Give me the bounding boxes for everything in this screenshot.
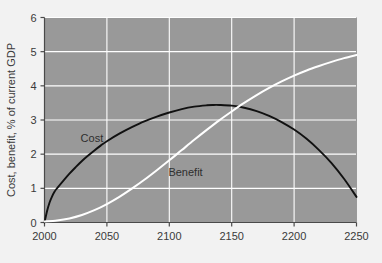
x-tick-label: 2200	[282, 230, 306, 242]
x-tick-label: 2150	[219, 230, 243, 242]
y-tick-label: 4	[30, 80, 36, 92]
y-tick-label: 3	[30, 114, 36, 126]
y-tick-label: 0	[30, 217, 36, 229]
cost-benefit-line-chart: CostBenefit 0123456200020502100215022002…	[0, 0, 382, 263]
x-tick-label: 2100	[157, 230, 181, 242]
series-label-benefit: Benefit	[168, 166, 202, 178]
y-tick-label: 2	[30, 148, 36, 160]
y-tick-label: 1	[30, 182, 36, 194]
y-tick-label: 5	[30, 46, 36, 58]
series-label-cost: Cost	[81, 132, 104, 144]
x-tick-label: 2250	[344, 230, 368, 242]
y-axis-title-text: Cost, benefit, % of current GDP	[5, 43, 17, 197]
x-tick-label: 2050	[95, 230, 119, 242]
y-axis-title: Cost, benefit, % of current GDP	[5, 43, 17, 197]
x-tick-label: 2000	[32, 230, 56, 242]
y-tick-label: 6	[30, 12, 36, 24]
chart-container: CostBenefit 0123456200020502100215022002…	[0, 0, 382, 263]
